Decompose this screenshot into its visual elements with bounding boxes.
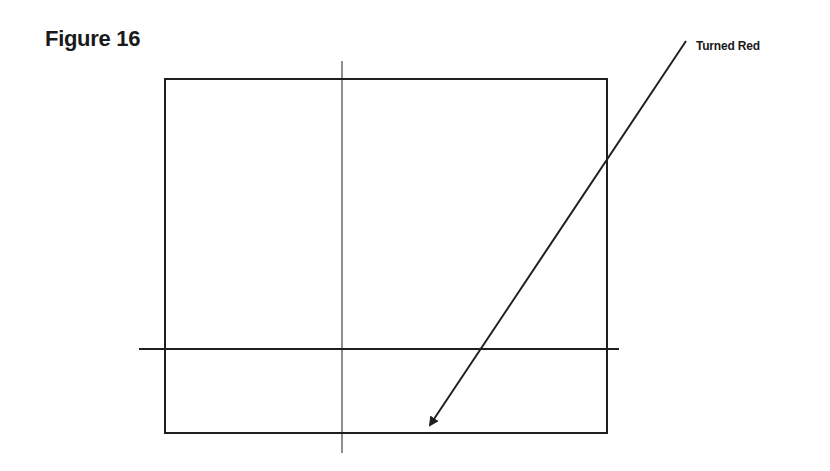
annotation-arrow-icon: [430, 41, 686, 425]
outer-rectangle: [165, 79, 607, 433]
diagram-canvas: [0, 0, 830, 471]
